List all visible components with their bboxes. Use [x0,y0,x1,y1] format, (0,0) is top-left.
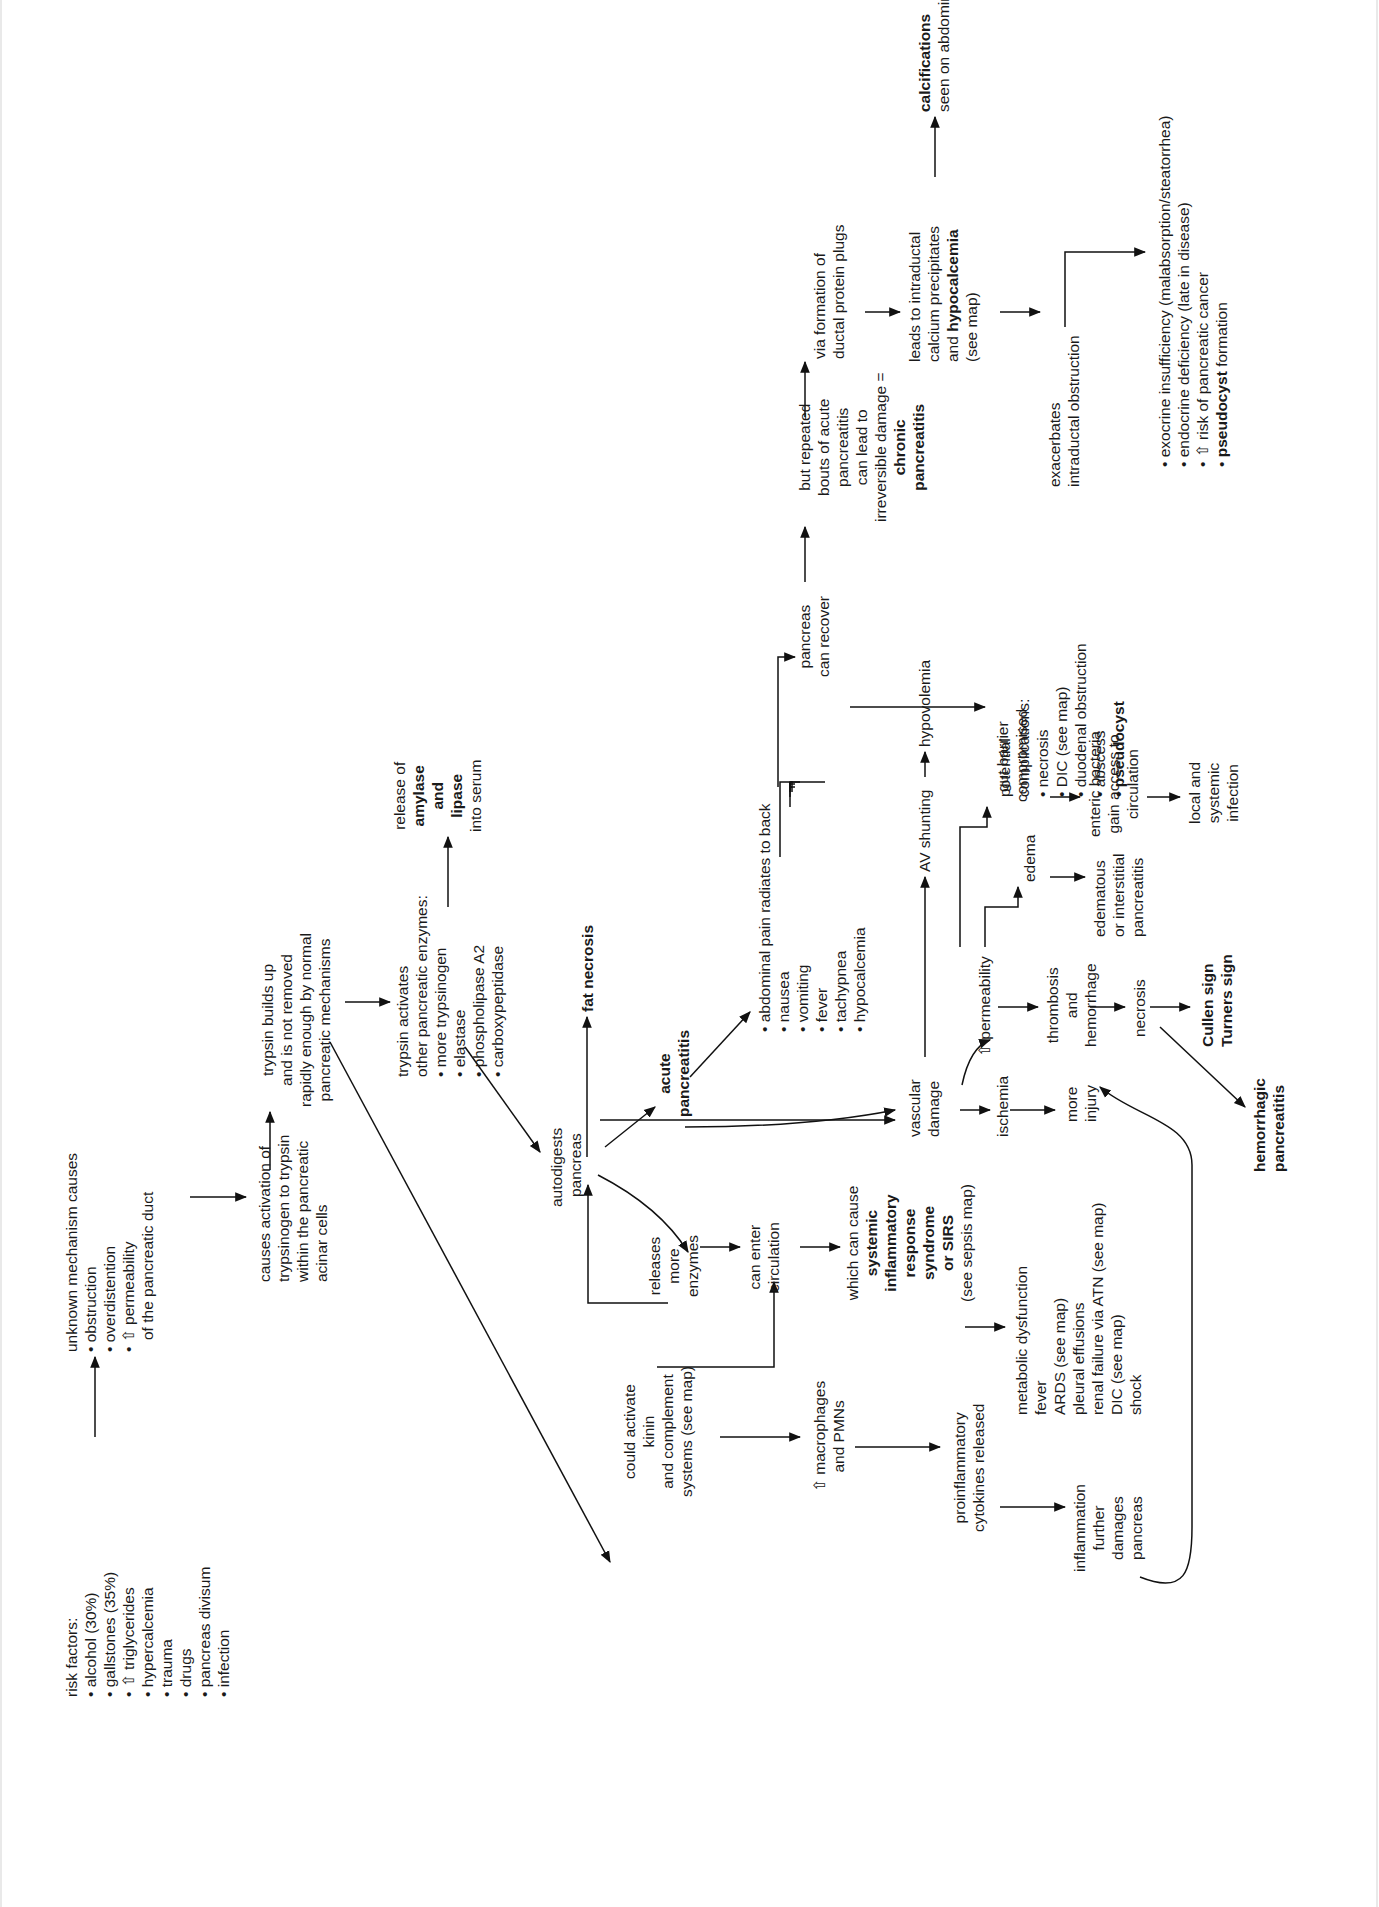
text-line: cytokines released [969,1404,988,1532]
text-line: can enter [745,1222,764,1292]
text-line: kinin [639,1366,658,1497]
calcifications-label: calcifications [915,0,934,112]
text-line: fever [1031,1203,1050,1416]
text-line: pancreatitis [1128,853,1147,937]
text-line: damage [924,1079,943,1137]
text-line: circulation [1123,731,1142,837]
list-item-continuation: of the pancreatic duct [138,1153,157,1352]
text-line: hemorrhagic [1250,1078,1269,1172]
text-line: which can cause [843,1184,862,1302]
text-line: gain access to [1104,731,1123,837]
text-line: within the pancreatic [293,1135,312,1282]
text-line: autodigests [547,1128,566,1207]
text-line: or interstitial [1109,853,1128,937]
kinin-complement-node: could activate kinin and complement syst… [620,1366,696,1497]
text-line: gut barrier [993,709,1012,802]
exacerbates-obstruction-node: exacerbates intraductal obstruction [1045,335,1083,487]
list-item: ⇧ triglycerides [119,1567,138,1697]
list-item: more trypsinogen [431,895,450,1077]
chronic-label: chronic [890,373,909,522]
text-line: can lead to [852,373,871,522]
chronic-outcomes-list: exocrine insufficiency (malabsorption/st… [1155,116,1231,467]
list-item: fever [812,803,831,1032]
text-line: other pancreatic enzymes: [412,895,431,1077]
text-span: and [944,332,961,362]
pseudocyst-label: pseudocyst [1213,371,1230,457]
releases-more-enzymes-node: releases more enzymes [645,1235,702,1297]
list-item: ⇧ risk of pancreatic cancer [1193,116,1212,467]
list-item: carboxypeptidase [488,895,507,1077]
risk-factors-title: risk factors: [62,1567,81,1697]
text-line: ARDS (see map) [1050,1203,1069,1416]
amylase-lipase-release-node: release of amylase and lipase into serum [390,760,485,832]
text-line: vascular [905,1079,924,1137]
more-injury-node: more injury [1062,1085,1100,1122]
enter-circulation-node: can enter circulation [745,1222,783,1292]
text-line: hemorrhage [1081,963,1100,1047]
sirs-label: or SIRS [938,1184,957,1302]
text-line: pleural effusions [1069,1203,1088,1416]
scan-artifact-line [0,0,2,1907]
list-item: tachypnea [831,803,850,1032]
text-line: pancreas [795,596,814,677]
hypocalcemia-label: hypocalcemia [944,229,961,332]
text-line: pancreas [1127,1484,1146,1572]
text-line: inflammation [1070,1484,1089,1572]
trypsinogen-activation-node: causes activation of trypsinogen to tryp… [255,1135,331,1282]
cullen-turner-signs-node: Cullen sign Turners sign [1198,954,1236,1047]
enzyme-list: more trypsinogen elastase phospholipase … [431,895,507,1077]
text-line: edematous [1090,853,1109,937]
macrophages-pmns-node: ⇧ macrophages and PMNs [810,1381,848,1492]
text-line: further [1089,1484,1108,1572]
list-item: abdominal pain radiates to back [755,803,774,1032]
text-line: pancreas [566,1128,585,1207]
amylase-label: amylase [409,760,428,832]
mechanism-list: obstruction overdistention ⇧ permeabilit… [81,1153,157,1352]
risk-factors-node: risk factors: alcohol (30%) gallstones (… [62,1567,233,1697]
list-item: exocrine insufficiency (malabsorption/st… [1155,116,1174,467]
trypsin-buildup-node: trypsin builds up and is not removed rap… [258,933,334,1107]
thrombosis-hemorrhage-node: thrombosis and hemorrhage [1043,963,1100,1047]
ischemia-node: ischemia [993,1076,1012,1137]
list-item: overdistention [100,1153,119,1352]
list-item: trauma [157,1567,176,1697]
pancreatitis-concept-map: risk factors: alcohol (30%) gallstones (… [0,0,1379,1907]
text-line: calcium precipitates [924,226,943,362]
text-line: exacerbates [1045,335,1064,487]
list-item: ⇧ permeability [119,1153,138,1352]
list-item: hypercalcemia [138,1567,157,1697]
text-line: renal failure via ATN (see map) [1088,1203,1107,1416]
text-line: and complement [658,1366,677,1497]
fat-necrosis-node: fat necrosis [578,925,597,1012]
text-line: systems (see map) [677,1366,696,1497]
calcifications-node: calcifications seen on abdominal x-ray [915,0,953,112]
text-line: and hypocalcemia [943,226,962,362]
sirs-node: which can cause systemic inflammatory re… [843,1184,976,1302]
ductal-protein-plugs-node: via formation of ductal protein plugs [810,225,848,359]
text-line: trypsin activates [393,895,412,1077]
permeability-node: ⇧ permeability [975,956,994,1057]
acute-symptoms-node: abdominal pain radiates to back nausea v… [755,803,869,1032]
necrosis-node: necrosis [1130,979,1149,1037]
cullen-sign-label: Cullen sign [1198,954,1217,1047]
acute-pancreatitis-node: acute pancreatitis [655,1030,693,1117]
text-line: into serum [466,760,485,832]
text-line: syndrome [919,1184,938,1302]
text-line: thrombosis [1043,963,1062,1047]
list-item: vomiting [793,803,812,1032]
list-item: obstruction [81,1153,100,1352]
text-line: ⇧ macrophages [810,1381,829,1492]
text-line: compromised [1012,709,1031,802]
text-line: trypsin builds up [258,933,277,1107]
enteric-bacteria-node: enteric bacteria gain access to circulat… [1085,731,1142,837]
edema-node: edema [1020,835,1039,882]
list-item: infection [214,1567,233,1697]
inflammation-node: inflammation further damages pancreas [1070,1484,1146,1572]
text-line: more [1062,1085,1081,1122]
text-line: releases [645,1235,664,1297]
text-line: acinar cells [312,1135,331,1282]
text-line: metabolic dysfunction [1012,1203,1031,1416]
sirs-effects-node: metabolic dysfunction fever ARDS (see ma… [1012,1203,1145,1416]
text-line: can recover [814,596,833,677]
text-line: irreversible damage = [871,373,890,522]
